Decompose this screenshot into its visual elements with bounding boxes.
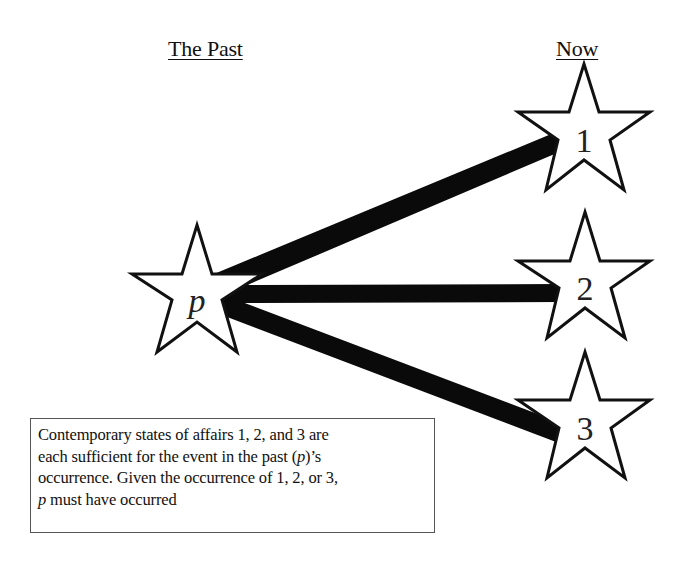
star-label-3: 3 [577, 410, 594, 447]
note-line-1: Contemporary states of affairs 1, 2, and… [38, 424, 427, 446]
star-label-2: 2 [577, 270, 594, 307]
note-line-4: p must have occurred [38, 489, 427, 511]
connectors [214, 132, 564, 442]
note-var-p: p [38, 490, 46, 509]
star-1: 1 [518, 64, 650, 190]
star-label-1: 1 [576, 122, 593, 159]
note-line-2-post: )’s [305, 447, 321, 466]
star-2: 2 [518, 212, 650, 338]
connector-p-to-2 [222, 284, 562, 303]
note-line-3: occurrence. Given the occurrence of 1, 2… [38, 467, 427, 489]
note-line-4-post: must have occurred [46, 490, 176, 509]
note-line-2-pre: each sufficient for the event in the pas… [38, 447, 297, 466]
explanation-note: Contemporary states of affairs 1, 2, and… [30, 418, 435, 533]
note-var-p: p [297, 447, 305, 466]
star-3: 3 [518, 352, 650, 478]
note-line-2: each sufficient for the event in the pas… [38, 446, 427, 468]
star-label-p: p [187, 282, 206, 319]
connector-p-to-1 [214, 132, 564, 294]
